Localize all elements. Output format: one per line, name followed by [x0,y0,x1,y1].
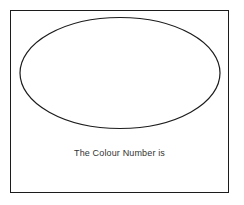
worksheet-canvas: The Colour Number is [0,0,244,205]
caption-text: The Colour Number is [10,147,229,159]
worksheet-border [10,10,229,193]
